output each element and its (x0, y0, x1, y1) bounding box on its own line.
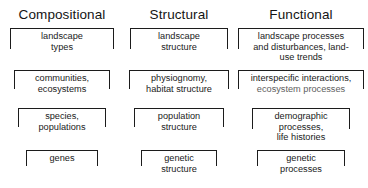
bracket-box: genetic processes (257, 150, 345, 176)
bracket-box: physiognomy, habitat structure (129, 70, 229, 100)
bracket-box: demographic processes, life histories (252, 108, 350, 142)
box-line: species, (22, 111, 102, 122)
cell-compositional-species: species, populations (0, 108, 124, 138)
bracket-box: landscape processes and disturbances, la… (238, 28, 364, 62)
bracket-box: genes (26, 150, 98, 176)
attribute-grid: landscape types landscape structure land… (0, 28, 368, 188)
box-line: life histories (256, 132, 346, 143)
box-line: landscape (14, 31, 110, 42)
bracket-box: landscape structure (130, 28, 228, 62)
box-line: physiognomy, (133, 73, 225, 84)
bracket-box: landscape types (10, 28, 114, 62)
grid-row-community-ecosystem: communities, ecosystems physiognomy, hab… (0, 70, 368, 108)
cell-functional-genetic: genetic processes (234, 150, 368, 176)
box-line: processes, (256, 122, 346, 133)
cell-compositional-community: communities, ecosystems (0, 70, 124, 100)
cell-functional-landscape: landscape processes and disturbances, la… (234, 28, 368, 62)
box-line: populations (22, 122, 102, 133)
biodiversity-attributes-diagram: Compositional Structural Functional land… (0, 0, 368, 188)
box-line: ecosystems (18, 84, 106, 95)
box-line: and disturbances, land- (242, 42, 360, 53)
box-line: use trends (242, 52, 360, 63)
bracket-box: genetic structure (141, 150, 217, 176)
bracket-box: communities, ecosystems (14, 70, 110, 100)
box-line: genetic (145, 153, 213, 164)
box-line: genes (30, 153, 94, 164)
box-line: genetic (261, 153, 341, 164)
bracket-box: interspecific interactions, ecosystem pr… (238, 70, 364, 100)
box-line: demographic (256, 111, 346, 122)
column-header-compositional: Compositional (0, 4, 124, 26)
box-line: types (14, 42, 110, 53)
cell-compositional-landscape: landscape types (0, 28, 124, 62)
column-header-row: Compositional Structural Functional (0, 4, 368, 26)
column-header-structural: Structural (124, 4, 234, 26)
box-line: landscape (134, 31, 224, 42)
cell-structural-community: physiognomy, habitat structure (124, 70, 234, 100)
grid-row-landscape: landscape types landscape structure land… (0, 28, 368, 70)
bracket-box: population structure (134, 108, 224, 138)
cell-functional-community: interspecific interactions, ecosystem pr… (234, 70, 368, 100)
box-line: communities, (18, 73, 106, 84)
cell-structural-genetic: genetic structure (124, 150, 234, 176)
box-line: processes (261, 164, 341, 175)
grid-row-population-species: species, populations population structur… (0, 108, 368, 150)
cell-structural-population: population structure (124, 108, 234, 138)
box-line: interspecific interactions, (242, 73, 360, 84)
box-line: structure (145, 164, 213, 175)
box-line: structure (134, 42, 224, 53)
box-line: habitat structure (133, 84, 225, 95)
box-line: structure (138, 122, 220, 133)
column-header-functional: Functional (234, 4, 368, 26)
bracket-box: species, populations (18, 108, 106, 138)
box-line: landscape processes (242, 31, 360, 42)
box-line: ecosystem processes (242, 84, 360, 95)
cell-structural-landscape: landscape structure (124, 28, 234, 62)
cell-functional-demographic: demographic processes, life histories (234, 108, 368, 142)
cell-compositional-genes: genes (0, 150, 124, 176)
box-line: population (138, 111, 220, 122)
grid-row-genetic: genes genetic structure genetic processe… (0, 150, 368, 188)
